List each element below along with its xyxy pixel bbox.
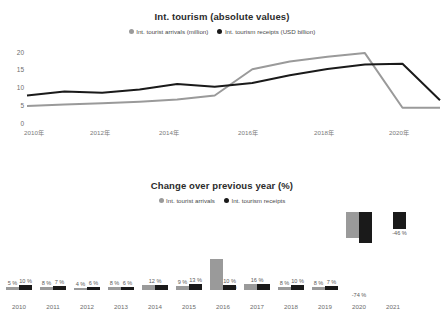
bar-value-label: 7 % xyxy=(327,279,337,285)
bar-plot-area: 5 %10 %20108 %7 %20114 %6 %20128 %6 %201… xyxy=(0,212,444,312)
bar-receipts-2016: 10 % xyxy=(223,285,236,290)
bar-value-label: 8 % xyxy=(42,280,52,286)
x-axis-tick-2018: 2018 xyxy=(276,303,306,310)
bar-arrivals-2010: 5 % xyxy=(6,287,19,290)
line-plot-area: 20 15 10 5 0 2010年 2012年 2014年 2016年 201… xyxy=(0,42,444,137)
x-axis-tick: 2012年 xyxy=(90,128,110,137)
bar-value-label: 13 % xyxy=(189,277,202,283)
line-series-svg xyxy=(0,42,444,137)
bar-receipts-2017 xyxy=(257,284,270,290)
bar-receipts-2011: 7 % xyxy=(53,286,66,290)
bar-arrivals-2016: 79 % xyxy=(210,259,223,290)
bar-group-note-2020: -74 % xyxy=(339,292,379,298)
line-chart-legend: Int. tourist arrivals (million) Int. tou… xyxy=(0,28,444,35)
x-axis-tick-2013: 2013 xyxy=(106,303,136,310)
legend-label-arrivals-pct: Int. tourist arrivals xyxy=(166,197,215,204)
bar-arrivals-2015: 9 % xyxy=(176,286,189,290)
bar-arrivals-2012: 4 % xyxy=(74,288,87,290)
legend-marker-receipts-pct xyxy=(224,198,229,203)
legend-item-receipts-pct: Int. tourism receipts xyxy=(224,197,286,204)
bar-receipts-2020 xyxy=(359,212,372,243)
legend-item-arrivals-pct: Int. tourist arrivals xyxy=(159,197,215,204)
bar-arrivals-2011: 8 % xyxy=(40,287,53,290)
bar-chart-title: Change over previous year (%) xyxy=(0,165,444,191)
bar-value-label: 5 % xyxy=(8,280,18,286)
line-chart-title: Int. tourism (absolute values) xyxy=(0,0,444,22)
bar-group-2016: 79 %10 % xyxy=(208,212,238,290)
bar-arrivals-2020 xyxy=(346,212,359,238)
bar-arrivals-2017 xyxy=(244,284,257,290)
bar-group-2013: 8 %6 % xyxy=(106,212,136,290)
x-axis-tick: 2018年 xyxy=(314,128,334,137)
bar-receipts-2010: 10 % xyxy=(19,285,32,290)
bar-receipts-2013: 6 % xyxy=(121,287,134,290)
x-axis-tick: 2016年 xyxy=(238,128,258,137)
bar-value-label: -46 % xyxy=(392,230,407,236)
legend-label-receipts: Int. tourism receipts (USD billion) xyxy=(225,28,315,35)
change-over-previous-year-chart: Change over previous year (%) Int. touri… xyxy=(0,165,444,312)
x-axis-tick: 2010年 xyxy=(24,128,44,137)
bar-value-label: 10 % xyxy=(19,278,32,284)
legend-item-receipts: Int. tourism receipts (USD billion) xyxy=(217,28,315,35)
bar-receipts-2014 xyxy=(155,285,168,290)
bar-group-2018: 8 %10 % xyxy=(276,212,306,290)
bar-value-label: 8 % xyxy=(280,280,290,286)
bar-arrivals-2019: 8 % xyxy=(312,287,325,290)
x-axis-tick-2021: 2021 xyxy=(378,303,408,310)
bar-arrivals-2013: 8 % xyxy=(108,287,121,290)
x-axis-tick-2016: 2016 xyxy=(208,303,238,310)
bar-group-2015: 9 %13 % xyxy=(174,212,204,290)
bar-receipts-2012: 6 % xyxy=(87,287,100,290)
bar-group-2021: -46 % xyxy=(378,212,408,290)
bar-group-2011: 8 %7 % xyxy=(38,212,68,290)
bar-chart-legend: Int. tourist arrivals Int. tourism recei… xyxy=(0,197,444,204)
x-axis-tick-2012: 2012 xyxy=(72,303,102,310)
bar-value-label: 6 % xyxy=(89,280,99,286)
bar-value-label: 10 % xyxy=(291,278,304,284)
legend-label-arrivals: Int. tourist arrivals (million) xyxy=(136,28,208,35)
bar-value-label: 6 % xyxy=(123,280,133,286)
bar-receipts-2019: 7 % xyxy=(325,286,338,290)
legend-marker-arrivals-pct xyxy=(159,198,164,203)
x-axis-tick: 2020年 xyxy=(389,128,409,137)
bar-arrivals-2018: 8 % xyxy=(278,287,291,290)
x-axis-tick-2019: 2019 xyxy=(310,303,340,310)
bar-value-label: 8 % xyxy=(314,280,324,286)
x-axis-tick-2017: 2017 xyxy=(242,303,272,310)
series-line-arrivals xyxy=(27,53,440,108)
bar-receipts-2018: 10 % xyxy=(291,285,304,290)
bar-group-2012: 4 %6 % xyxy=(72,212,102,290)
bar-group-2019: 8 %7 % xyxy=(310,212,340,290)
x-axis-tick-2011: 2011 xyxy=(38,303,68,310)
bar-receipts-2021: -46 % xyxy=(393,212,406,229)
x-axis-tick-2014: 2014 xyxy=(140,303,170,310)
x-axis-tick-2015: 2015 xyxy=(174,303,204,310)
bar-value-label: 9 % xyxy=(178,279,188,285)
bar-group-2010: 5 %10 % xyxy=(4,212,34,290)
bar-arrivals-2014 xyxy=(142,285,155,290)
bar-group-note-2014: 12 % xyxy=(135,278,175,284)
bar-value-label: 10 % xyxy=(223,278,236,284)
legend-marker-receipts xyxy=(217,29,222,34)
bar-receipts-2015: 13 % xyxy=(189,284,202,290)
x-axis-tick-2020: 2020 xyxy=(344,303,374,310)
absolute-values-chart: Int. tourism (absolute values) Int. tour… xyxy=(0,0,444,165)
legend-marker-arrivals xyxy=(129,29,134,34)
legend-item-arrivals: Int. tourist arrivals (million) xyxy=(129,28,209,35)
x-axis-tick: 2014年 xyxy=(159,128,179,137)
bar-group-note-2017: 16 % xyxy=(237,277,277,283)
bar-value-label: 4 % xyxy=(76,281,86,287)
x-axis-tick-2010: 2010 xyxy=(4,303,34,310)
bar-value-label: 8 % xyxy=(110,280,120,286)
bar-group-2020 xyxy=(344,212,374,290)
bar-value-label: 7 % xyxy=(55,279,65,285)
legend-label-receipts-pct: Int. tourism receipts xyxy=(231,197,285,204)
